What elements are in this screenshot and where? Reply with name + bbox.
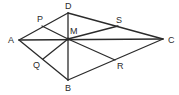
segment-AC (19, 39, 163, 40)
segment-MP (42, 26, 68, 39)
point-M-dot (67, 38, 70, 41)
label-S: S (116, 15, 122, 25)
label-D: D (65, 1, 72, 11)
label-B: B (65, 83, 71, 93)
segment-BA (19, 40, 68, 80)
segment-MQ (43, 39, 68, 59)
label-M: M (70, 26, 78, 36)
label-C: C (168, 35, 175, 45)
label-P: P (37, 14, 43, 24)
label-Q: Q (33, 60, 40, 70)
segment-MR (68, 39, 115, 60)
label-A: A (8, 35, 14, 45)
geometry-diagram: A D C B M P Q S R (0, 0, 179, 95)
label-R: R (117, 61, 124, 71)
